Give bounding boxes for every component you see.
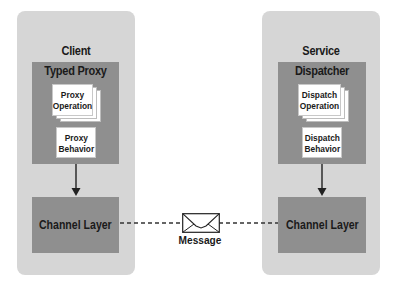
client-channel-layer: Channel Layer: [32, 197, 119, 253]
dispatch-behavior-card: DispatchBehavior: [302, 127, 342, 158]
dispatch-operation-line1: Dispatch: [300, 89, 339, 100]
client-channel-label: Channel Layer: [39, 218, 112, 232]
dispatch-behavior-line2: Behavior: [304, 143, 340, 154]
dispatcher-title: Dispatcher: [283, 64, 360, 78]
service-title: Service: [269, 44, 373, 58]
typed-proxy-title: Typed Proxy: [37, 64, 114, 78]
dispatch-operation-line2: Operation: [300, 100, 339, 111]
proxy-operation-card: ProxyOperation: [52, 84, 93, 116]
proxy-behavior-line1: Proxy: [58, 132, 94, 143]
proxy-behavior-line2: Behavior: [58, 143, 94, 154]
client-down-arrow-icon: [70, 164, 82, 198]
proxy-operation-line1: Proxy: [53, 89, 92, 100]
service-channel-label: Channel Layer: [286, 218, 359, 232]
message-label: Message: [174, 234, 227, 246]
proxy-operation-line2: Operation: [53, 100, 92, 111]
client-title: Client: [24, 44, 128, 58]
dispatch-operation-card: DispatchOperation: [298, 84, 341, 116]
envelope-icon: [182, 213, 220, 233]
typed-proxy-box: Typed Proxy ProxyOperation ProxyBehavior: [32, 62, 119, 164]
service-down-arrow-icon: [316, 164, 328, 198]
proxy-behavior-card: ProxyBehavior: [56, 127, 96, 158]
dispatch-behavior-line1: Dispatch: [304, 132, 340, 143]
dispatcher-box: Dispatcher DispatchOperation DispatchBeh…: [278, 62, 366, 164]
service-channel-layer: Channel Layer: [278, 197, 366, 253]
